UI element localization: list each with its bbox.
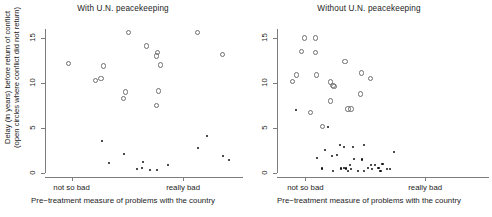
x-axis-line-right xyxy=(277,177,489,178)
x-axis-label-right: Pre−treatment measure of problems with t… xyxy=(246,196,492,205)
data-point-solid-dot xyxy=(331,155,333,157)
data-point-solid-dot xyxy=(386,168,388,170)
data-point-solid-dot xyxy=(347,170,349,172)
plot-area-right xyxy=(279,29,482,173)
data-point-solid-dot xyxy=(370,164,372,166)
y-tick-label: 0 xyxy=(28,165,37,181)
data-point-open-circle xyxy=(144,43,149,48)
y-axis-label-left-line2: (open circles where conflict did not ret… xyxy=(12,2,21,152)
x-tick-label: really bad xyxy=(408,183,442,192)
data-point-open-circle xyxy=(98,76,103,81)
data-point-solid-dot xyxy=(389,168,391,170)
y-axis-label-left: Delay (in years) before return of confli… xyxy=(3,2,22,152)
data-point-solid-dot xyxy=(357,170,359,172)
data-point-solid-dot xyxy=(197,147,199,149)
data-point-solid-dot xyxy=(381,163,383,165)
x-tick-label: not so bad xyxy=(287,183,323,192)
plot-area-left xyxy=(47,29,236,173)
y-axis-line-left xyxy=(45,29,46,173)
panel-title-right: Without U.N. peacekeeping xyxy=(246,4,492,13)
data-point-open-circle xyxy=(302,35,307,40)
data-point-solid-dot xyxy=(228,159,230,161)
data-point-open-circle xyxy=(121,96,126,101)
data-point-solid-dot xyxy=(350,168,352,170)
panel-title-left: With U.N. peacekeeping xyxy=(0,4,246,13)
data-point-solid-dot xyxy=(332,170,334,172)
y-tick-mark xyxy=(41,128,45,129)
y-tick-mark xyxy=(273,128,277,129)
data-point-open-circle xyxy=(290,79,295,84)
data-point-open-circle xyxy=(154,103,159,108)
y-tick-mark xyxy=(273,38,277,39)
data-point-solid-dot xyxy=(374,164,376,166)
data-point-open-circle xyxy=(93,78,98,83)
y-tick-mark xyxy=(41,173,45,174)
data-point-open-circle xyxy=(313,35,318,40)
data-point-solid-dot xyxy=(349,164,351,166)
data-point-open-circle xyxy=(156,88,161,93)
y-tick-label: 10 xyxy=(28,75,37,91)
data-point-solid-dot xyxy=(352,146,354,148)
y-tick-mark xyxy=(41,38,45,39)
data-point-solid-dot xyxy=(101,140,103,142)
y-tick-label: 0 xyxy=(260,165,269,181)
data-point-solid-dot xyxy=(206,135,208,137)
data-point-open-circle xyxy=(320,124,325,129)
data-point-solid-dot xyxy=(363,144,365,146)
y-tick-mark xyxy=(273,173,277,174)
data-point-solid-dot xyxy=(393,151,395,153)
data-point-solid-dot xyxy=(222,155,224,157)
data-point-solid-dot xyxy=(316,157,318,159)
data-point-open-circle xyxy=(66,61,71,66)
y-tick-mark xyxy=(273,83,277,84)
data-point-open-circle xyxy=(359,70,364,75)
data-point-open-circle xyxy=(294,72,299,77)
data-point-solid-dot xyxy=(379,170,381,172)
data-point-solid-dot xyxy=(149,169,151,171)
data-point-open-circle xyxy=(101,63,106,68)
data-point-solid-dot xyxy=(108,162,110,164)
data-point-solid-dot xyxy=(336,154,338,156)
data-point-solid-dot xyxy=(141,167,143,169)
x-tick-mark xyxy=(72,177,73,181)
data-point-open-circle xyxy=(314,72,319,77)
data-point-open-circle xyxy=(348,106,353,111)
y-axis-label-left-line1: Delay (in years) before return of confli… xyxy=(3,2,12,152)
data-point-open-circle xyxy=(358,91,363,96)
data-point-solid-dot xyxy=(136,168,138,170)
data-point-open-circle xyxy=(308,110,313,115)
panel-with-peacekeeping: With U.N. peacekeeping Delay (in years) … xyxy=(0,0,246,217)
y-tick-mark xyxy=(41,83,45,84)
data-point-solid-dot xyxy=(123,153,125,155)
x-tick-label: really bad xyxy=(166,183,200,192)
y-tick-label: 5 xyxy=(260,120,269,136)
panel-without-peacekeeping: Without U.N. peacekeeping 051015 not so … xyxy=(246,0,492,217)
data-point-open-circle xyxy=(331,84,336,89)
data-point-open-circle xyxy=(195,30,200,35)
data-point-open-circle xyxy=(123,89,128,94)
x-tick-mark xyxy=(183,177,184,181)
data-point-solid-dot xyxy=(339,144,341,146)
data-point-solid-dot xyxy=(361,158,363,160)
figure-scatter-panels: With U.N. peacekeeping Delay (in years) … xyxy=(0,0,492,217)
data-point-solid-dot xyxy=(353,158,355,160)
data-point-solid-dot xyxy=(156,169,158,171)
data-point-solid-dot xyxy=(340,167,342,169)
data-point-solid-dot xyxy=(363,170,365,172)
y-tick-label: 10 xyxy=(260,75,269,91)
data-point-open-circle xyxy=(342,59,347,64)
y-tick-label: 5 xyxy=(28,120,37,136)
data-point-solid-dot xyxy=(167,164,169,166)
data-point-solid-dot xyxy=(343,146,345,148)
x-tick-mark xyxy=(305,177,306,181)
data-point-open-circle xyxy=(154,53,159,58)
data-point-solid-dot xyxy=(371,168,373,170)
data-point-open-circle xyxy=(328,98,333,103)
data-point-solid-dot xyxy=(295,109,297,111)
data-point-solid-dot xyxy=(321,167,323,169)
x-tick-mark xyxy=(425,177,426,181)
data-point-solid-dot xyxy=(377,167,379,169)
y-tick-label: 15 xyxy=(260,30,269,46)
data-point-open-circle xyxy=(158,62,163,67)
data-point-solid-dot xyxy=(327,126,329,128)
